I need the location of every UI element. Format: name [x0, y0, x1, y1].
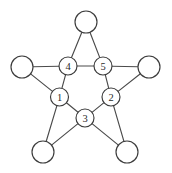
graph-figure: 12345 [0, 0, 172, 173]
node-circle-outer-top[interactable] [75, 11, 97, 33]
graph-node-outer-left[interactable] [11, 56, 33, 78]
edge-top-4 [71, 32, 81, 57]
node-label-inner-4: 4 [65, 61, 71, 72]
edge-right-2 [118, 74, 140, 92]
node-circle-outer-bottom-right[interactable] [116, 141, 138, 163]
node-circle-outer-right[interactable] [138, 56, 160, 78]
edge-bottomright-3 [92, 124, 118, 145]
node-layer: 12345 [11, 11, 160, 163]
node-label-inner-3: 3 [82, 113, 87, 124]
edge-left-4 [33, 66, 59, 67]
edge-layer [31, 32, 141, 145]
graph-node-outer-top[interactable] [75, 11, 97, 33]
edge-right-5 [112, 66, 138, 67]
edge-1-3 [66, 103, 78, 113]
graph-node-outer-bottom-left[interactable] [32, 141, 54, 163]
node-label-inner-1: 1 [57, 92, 62, 103]
edge-2-5 [105, 75, 109, 89]
edge-3-2 [92, 103, 104, 113]
edge-bottomleft-1 [46, 106, 57, 142]
graph-node-inner-4[interactable]: 4 [59, 57, 77, 75]
edge-left-1 [31, 74, 53, 92]
graph-node-inner-3[interactable]: 3 [76, 109, 94, 127]
node-label-inner-2: 2 [108, 92, 113, 103]
graph-node-outer-right[interactable] [138, 56, 160, 78]
node-label-inner-5: 5 [100, 61, 105, 72]
edge-bottomleft-3 [52, 124, 78, 145]
graph-canvas: 12345 [0, 0, 172, 173]
node-circle-outer-left[interactable] [11, 56, 33, 78]
node-circle-outer-bottom-left[interactable] [32, 141, 54, 163]
edge-bottomright-2 [114, 106, 124, 142]
edge-4-1 [62, 75, 66, 89]
graph-node-inner-1[interactable]: 1 [51, 88, 69, 106]
graph-node-inner-5[interactable]: 5 [94, 57, 112, 75]
graph-node-inner-2[interactable]: 2 [102, 88, 120, 106]
graph-node-outer-bottom-right[interactable] [116, 141, 138, 163]
edge-top-5 [90, 32, 100, 57]
